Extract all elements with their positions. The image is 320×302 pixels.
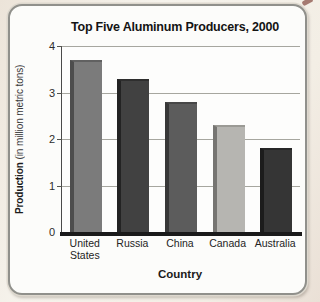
bar-canada — [213, 125, 245, 232]
category-label-australia: Australia — [251, 237, 299, 261]
scanned-page: Top Five Aluminum Producers, 2000 Produc… — [0, 0, 320, 302]
y-tick-label-3: 3 — [39, 88, 55, 99]
bar-united-states — [70, 60, 102, 232]
bar-china — [165, 102, 197, 232]
category-label-china: China — [156, 237, 204, 261]
y-tick-2 — [57, 139, 62, 140]
chart-card: Top Five Aluminum Producers, 2000 Produc… — [8, 4, 307, 295]
y-tick-label-1: 1 — [39, 181, 55, 192]
y-tick-label-0: 0 — [39, 227, 55, 238]
y-tick-4 — [57, 46, 62, 47]
chart-title: Top Five Aluminum Producers, 2000 — [50, 20, 300, 34]
y-tick-1 — [57, 186, 62, 187]
page-corner-mark — [301, 0, 313, 6]
y-axis-title: Production (in million metric tons) — [14, 46, 29, 232]
plot-area: 43210 — [61, 46, 300, 232]
y-tick-label-4: 4 — [39, 41, 55, 52]
category-label-canada: Canada — [204, 237, 252, 261]
category-labels: United StatesRussiaChinaCanadaAustralia — [61, 237, 299, 261]
category-label-russia: Russia — [109, 237, 157, 261]
bar-russia — [117, 79, 149, 232]
x-axis-line — [60, 232, 302, 236]
y-axis-title-bold: Production — [14, 162, 25, 214]
category-label-united-states: United States — [61, 237, 109, 261]
x-axis-title: Country — [61, 268, 299, 280]
bar-australia — [260, 148, 292, 232]
y-axis-title-units: (in million metric tons) — [14, 64, 25, 162]
y-tick-3 — [57, 93, 62, 94]
gridline-4 — [62, 46, 300, 47]
y-tick-label-2: 2 — [39, 134, 55, 145]
